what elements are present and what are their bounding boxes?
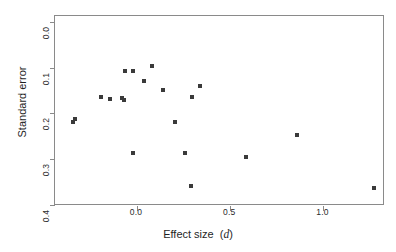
data-point: [99, 95, 103, 99]
x-axis-title-paren: ): [229, 228, 233, 240]
data-point: [123, 69, 127, 73]
y-axis-tick-label: 0.3: [41, 157, 51, 183]
data-point: [173, 120, 177, 124]
data-point: [73, 117, 77, 121]
x-axis-tick-label: 0.0: [130, 207, 142, 217]
x-axis-tick-label: 1.0: [316, 207, 328, 217]
y-axis-tick-label: 0.2: [41, 111, 51, 137]
x-axis-title-text: Effect size (: [163, 228, 223, 240]
y-axis-tick-label: 0.1: [41, 66, 51, 92]
y-axis-tick: [50, 205, 55, 206]
data-point: [122, 98, 126, 102]
data-point: [161, 88, 165, 92]
funnel-plot-figure: 0.00.10.20.30.4 0.00.51.0 Effect size (d…: [0, 0, 396, 252]
data-point: [198, 84, 202, 88]
x-axis-tick-labels: 0.00.51.0: [54, 207, 384, 221]
plot-area: [55, 16, 383, 204]
data-point: [150, 64, 154, 68]
y-axis-tick: [50, 159, 55, 160]
data-point: [131, 151, 135, 155]
data-point: [244, 155, 248, 159]
data-point: [131, 69, 135, 73]
y-axis-tick-label: 0.4: [41, 203, 51, 229]
data-point: [295, 133, 299, 137]
x-axis-title: Effect size (d): [0, 228, 396, 240]
y-axis-tick: [50, 68, 55, 69]
data-point: [108, 97, 112, 101]
y-axis-tick: [50, 22, 55, 23]
data-point: [142, 79, 146, 83]
y-axis-tick-label: 0.0: [41, 20, 51, 46]
plot-frame: [54, 15, 384, 205]
x-axis-tick-label: 0.5: [223, 207, 235, 217]
data-point: [190, 95, 194, 99]
data-point: [189, 184, 193, 188]
data-point: [372, 186, 376, 190]
y-axis-tick: [50, 113, 55, 114]
data-point: [183, 151, 187, 155]
y-axis-title: Standard error: [16, 17, 28, 187]
data-point: [71, 120, 75, 124]
